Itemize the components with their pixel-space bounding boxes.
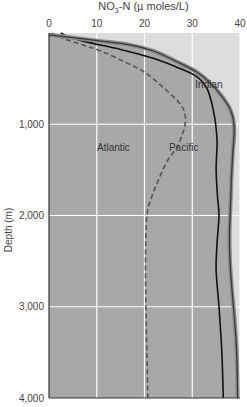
y-axis-tick-labels: 1,0002,0003,0004,000: [19, 119, 44, 404]
series-label-pacific: Pacific: [169, 142, 198, 153]
x-tick-label: 40: [234, 18, 246, 29]
x-tick-label: 0: [46, 18, 52, 29]
y-tick-label: 2,000: [19, 210, 44, 221]
series-label-atlantic: Atlantic: [97, 142, 130, 153]
x-tick-label: 30: [187, 18, 199, 29]
series-label-indian: Indian: [195, 79, 222, 90]
y-tick-label: 3,000: [19, 301, 44, 312]
y-tick-label: 1,000: [19, 119, 44, 130]
y-tick-label: 4,000: [19, 393, 44, 404]
nitrate-depth-chart: 010203040 1,0002,0003,0004,000 AtlanticP…: [0, 0, 247, 407]
x-tick-label: 20: [139, 18, 151, 29]
x-axis-tick-labels: 010203040: [46, 18, 246, 29]
x-tick-label: 10: [91, 18, 103, 29]
y-axis-label: Depth (m): [3, 208, 14, 252]
